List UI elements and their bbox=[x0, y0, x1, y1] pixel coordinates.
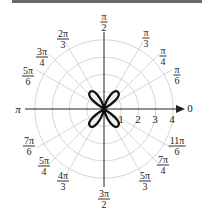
angle-label-4pi-over-3: 4π3 bbox=[57, 171, 69, 192]
radial-tick-2: 2 bbox=[135, 113, 141, 125]
angle-label-7pi-over-6: 7π6 bbox=[23, 136, 35, 157]
arrow-head-icon bbox=[176, 105, 185, 113]
angle-label-5pi-over-3: 5π3 bbox=[139, 171, 151, 192]
angle-label-11pi-over-6: 11π6 bbox=[169, 136, 186, 157]
angle-label-zero: 0 bbox=[187, 102, 193, 114]
radial-tick-4: 4 bbox=[169, 113, 175, 125]
angle-label-pi-over-3: π3 bbox=[142, 28, 149, 49]
angle-label-7pi-over-4: 7π4 bbox=[157, 155, 169, 176]
angle-label-3pi-over-4: 3π4 bbox=[36, 47, 48, 68]
angle-label-3pi-over-2: 3π2 bbox=[98, 189, 110, 210]
angle-label-pi-over-6: π6 bbox=[173, 65, 180, 86]
angle-label-pi: π bbox=[15, 103, 21, 115]
radial-tick-3: 3 bbox=[152, 113, 158, 125]
angle-label-5pi-over-6: 5π6 bbox=[22, 66, 34, 87]
angle-label-pi-over-4: π4 bbox=[159, 46, 166, 67]
angle-label-5pi-over-4: 5π4 bbox=[38, 156, 50, 177]
radial-tick-1: 1 bbox=[118, 113, 124, 125]
angle-label-2pi-over-3: 2π3 bbox=[57, 29, 69, 50]
angle-label-pi-over-2: π2 bbox=[100, 12, 107, 33]
